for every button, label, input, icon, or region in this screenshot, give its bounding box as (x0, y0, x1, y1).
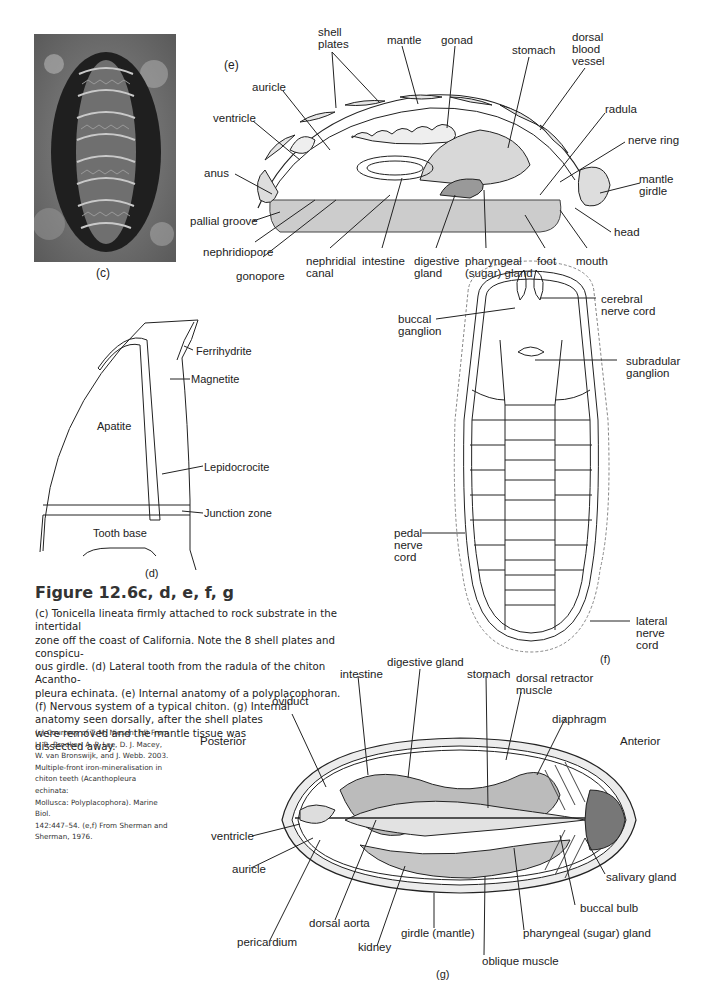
label-subradular-ganglion: subradular ganglion (626, 355, 680, 379)
label-apatite: Apatite (97, 420, 131, 432)
credit-line: (c) Courtesy of T. M. Niesen. (d) From (35, 727, 170, 739)
credit-line: Mollusca: Polyplacophora). Marine Biol. (35, 797, 170, 820)
label-foot: foot (537, 255, 556, 267)
label-nerve-ring: nerve ring (628, 134, 679, 146)
panel-e-tag: (e) (224, 58, 239, 72)
label-radula: radula (605, 103, 637, 115)
label-auricle: auricle (252, 81, 286, 93)
label-lepidocrocite: Lepidocrocite (204, 461, 269, 473)
panel-d-tag: (d) (145, 567, 158, 579)
label-gonad: gonad (441, 34, 473, 46)
credit-line: 142:447–54. (e,f) From Sherman and (35, 820, 170, 832)
label-mantle-girdle: mantle girdle (639, 173, 674, 197)
label-anterior: Anterior (620, 735, 660, 747)
panel-g-drawing (282, 738, 636, 893)
label-stomach: stomach (512, 44, 555, 56)
label-pericardium: pericardium (237, 936, 297, 948)
label-nephridiopore: nephridiopore (203, 246, 273, 258)
caption-line: (c) Tonicella lineata firmly attached to… (35, 607, 353, 634)
caption-line: anatomy seen dorsally, after the shell p… (35, 713, 353, 726)
label-nephridial-canal: nephridial canal (306, 255, 356, 279)
figure-title: Figure 12.6c, d, e, f, g (35, 583, 234, 602)
panel-f-drawing (454, 261, 609, 652)
label-digestive-gland-e: digestive gland (414, 255, 459, 279)
label-head: head (614, 226, 640, 238)
label-pharyngeal-gland-g: pharyngeal (sugar) gland (523, 927, 651, 939)
label-mouth: mouth (576, 255, 608, 267)
panel-d-leaders (162, 346, 203, 513)
label-kidney: kidney (358, 941, 391, 953)
credit-line: Multiple-front iron-mineralisation in (35, 762, 170, 774)
label-anus: anus (204, 167, 229, 179)
credit-line: L. R. Brooker, A. P. Lee, D. J. Macey, (35, 739, 170, 751)
label-cerebral-nerve-cord: cerebral nerve cord (601, 293, 655, 317)
label-lateral-nerve-cord: lateral nerve cord (636, 615, 667, 651)
label-gonopore: gonopore (236, 270, 285, 282)
label-digestive-gland-g: digestive gland (387, 656, 464, 668)
figure-credit: (c) Courtesy of T. M. Niesen. (d) From L… (35, 727, 170, 843)
label-stomach-g: stomach (467, 668, 510, 680)
label-dorsal-retractor-muscle: dorsal retractor muscle (516, 672, 593, 696)
label-auricle-g: auricle (232, 863, 266, 875)
label-ventricle-g: ventricle (211, 830, 254, 842)
caption-line: zone off the coast of California. Note t… (35, 634, 353, 661)
caption-line: ous girdle. (d) Lateral tooth from the r… (35, 660, 353, 687)
label-pharyngeal-gland-e: pharyngeal (sugar) gland (465, 255, 533, 279)
label-oblique-muscle: oblique muscle (482, 955, 559, 967)
panel-f-tag: (f) (600, 653, 610, 665)
credit-line: chiton teeth (Acanthopleura echinata: (35, 773, 170, 796)
panel-e-drawing (257, 95, 610, 232)
label-ventricle: ventricle (213, 112, 256, 124)
credit-line: W. van Bronswijk, and J. Webb. 2003. (35, 750, 170, 762)
credit-line: Sherman, 1976. (35, 831, 170, 843)
label-shell-plates: shell plates (318, 26, 349, 50)
label-mantle: mantle (387, 34, 422, 46)
label-ferrihydrite: Ferrihydrite (196, 345, 252, 357)
label-pedal-nerve-cord: pedal nerve cord (394, 527, 423, 563)
label-diaphragm: diaphragm (552, 713, 606, 725)
label-tooth-base: Tooth base (93, 527, 147, 539)
label-oviduct: oviduct (272, 695, 308, 707)
label-posterior: Posterior (200, 735, 246, 747)
label-girdle-mantle: girdle (mantle) (401, 927, 475, 939)
label-buccal-bulb: buccal bulb (580, 902, 638, 914)
label-magnetite: Magnetite (191, 373, 239, 385)
label-buccal-ganglion: buccal ganglion (398, 313, 441, 337)
label-junction-zone: Junction zone (204, 507, 272, 519)
label-intestine-e: intestine (362, 255, 405, 267)
panel-g-tag: (g) (436, 968, 449, 980)
label-dorsal-aorta: dorsal aorta (309, 917, 370, 929)
label-pallial-groove: pallial groove (190, 215, 258, 227)
label-salivary-gland: salivary gland (606, 871, 676, 883)
label-dorsal-blood-vessel: dorsal blood vessel (572, 31, 605, 67)
label-intestine-g: intestine (340, 668, 383, 680)
